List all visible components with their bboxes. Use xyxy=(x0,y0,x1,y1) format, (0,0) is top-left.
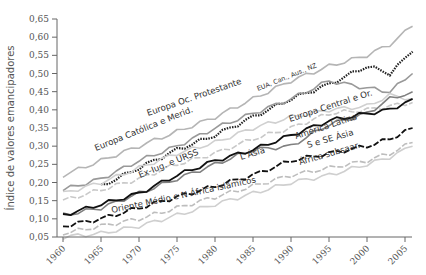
y-tick-label: 0,55 xyxy=(29,50,49,60)
x-ticks: 1960196519701975198019851990199520002005 xyxy=(44,237,409,267)
y-tick-label: 0,65 xyxy=(29,14,49,24)
y-tick-label: 0,35 xyxy=(29,123,49,133)
y-tick-label: 0,60 xyxy=(29,32,49,42)
series-line xyxy=(63,146,413,239)
x-tick-label: 1990 xyxy=(272,243,295,266)
x-tick-label: 1970 xyxy=(120,243,143,266)
x-tick-label: 1985 xyxy=(234,243,257,266)
series-line xyxy=(63,26,413,177)
x-tick-label: 1980 xyxy=(196,243,219,266)
y-ticks: 0,050,100,150,200,250,300,350,400,450,50… xyxy=(29,14,57,242)
y-tick-label: 0,05 xyxy=(29,232,49,242)
series-label: Europa Oc. Protestante xyxy=(145,76,242,118)
x-tick-label: 1965 xyxy=(82,243,105,266)
line-chart: 0,050,100,150,200,250,300,350,400,450,50… xyxy=(0,0,426,275)
y-tick-label: 0,20 xyxy=(29,178,49,188)
y-tick-label: 0,15 xyxy=(29,196,49,206)
x-tick-label: 2000 xyxy=(348,243,371,266)
y-axis-title: Índice de valores emancipadores xyxy=(4,45,16,210)
y-tick-label: 0,50 xyxy=(29,69,49,79)
x-tick-label: 1975 xyxy=(158,243,181,266)
series-labels: Europa Oc. ProtestanteEUA, Can., Aus., N… xyxy=(93,61,374,215)
x-tick-label: 1995 xyxy=(310,243,333,266)
y-tick-label: 0,45 xyxy=(29,87,49,97)
y-tick-label: 0,10 xyxy=(29,214,49,224)
series-label: EUA, Can., Aus., NZ xyxy=(256,61,319,93)
series-label: L Ásia xyxy=(238,144,266,162)
y-tick-label: 0,30 xyxy=(29,141,49,151)
y-tick-label: 0,25 xyxy=(29,159,49,169)
y-tick-label: 0,40 xyxy=(29,105,49,115)
x-tick-label: 1960 xyxy=(44,243,67,266)
x-tick-label: 2005 xyxy=(386,243,409,266)
